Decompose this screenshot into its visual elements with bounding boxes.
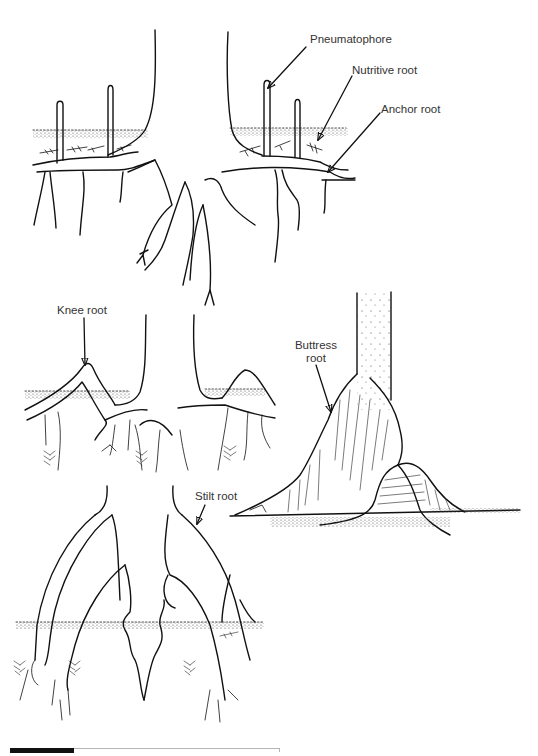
pneumatophore-panel xyxy=(33,30,355,305)
knee-root-arrow xyxy=(84,318,85,365)
pneumatophore-arrow xyxy=(268,47,306,88)
label-stilt-root: Stilt root xyxy=(195,490,237,503)
buttress-root-panel xyxy=(230,292,520,535)
stilt-root-panel xyxy=(14,486,264,722)
anchor-root-arrow xyxy=(328,113,380,172)
caption-bar xyxy=(10,748,280,752)
label-knee-root: Knee root xyxy=(57,304,107,317)
label-nutritive-root: Nutritive root xyxy=(352,64,417,77)
buttress-root-arrow xyxy=(316,365,331,412)
stilt-root-arrow xyxy=(197,505,205,524)
label-anchor-root: Anchor root xyxy=(381,103,440,116)
knee-root-panel xyxy=(25,315,275,472)
label-buttress-root: Buttress root xyxy=(290,339,342,365)
caption-bar-black-block xyxy=(10,748,74,753)
label-pneumatophore: Pneumatophore xyxy=(310,33,392,46)
label-buttress-root-line2: root xyxy=(290,352,342,365)
label-buttress-root-line1: Buttress xyxy=(290,339,342,352)
